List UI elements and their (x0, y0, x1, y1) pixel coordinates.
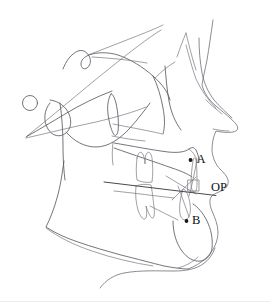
orbit-group (66, 94, 162, 147)
nasal-septum-curve (165, 66, 181, 130)
landmark-a-group: A (189, 152, 206, 166)
point-a-dot (189, 158, 193, 162)
sphenoid-group (26, 91, 146, 180)
occlusal-contact-cross-b (172, 177, 196, 200)
infraorbital-line (112, 136, 145, 141)
maxilla-group (112, 142, 199, 177)
mandibular-alveolar-line (114, 191, 174, 198)
point-a-label: A (197, 152, 206, 166)
nasal-tip-detail (206, 100, 222, 114)
nasal-cavity-group (153, 33, 196, 134)
mandible-ramus-body-outline (46, 161, 188, 269)
point-b-label: B (192, 213, 200, 227)
incisal-contact-box (188, 180, 199, 191)
zygomatic-line (113, 124, 162, 134)
lower-first-molar-outline (136, 184, 155, 219)
nasal-floor-maxilla-anterior (153, 76, 165, 134)
anterior-cranial-base-line (63, 50, 153, 76)
mandible-lower-border-inner (46, 228, 153, 266)
sella-turcica-circle (23, 96, 38, 111)
maxillary-tuberosity (112, 142, 113, 165)
frontonasal-line (92, 57, 147, 63)
cranial-base-long-line (27, 30, 161, 136)
pterygomaxillary-fissure-outline (108, 94, 119, 136)
mandible-group (46, 161, 212, 269)
subnasale-detail (213, 129, 229, 131)
cranial-base-group (27, 25, 170, 136)
soft-tissue-forehead-nose-lips-chin (188, 20, 238, 269)
cephalometric-tracing-canvas: A B OP (0, 0, 270, 302)
cephalometric-figure: A B OP (0, 0, 270, 302)
occlusal-plane-label: OP (211, 180, 227, 194)
landmark-b-group: B (185, 213, 201, 227)
nasion-area-line (177, 33, 186, 57)
point-b-dot (185, 219, 189, 223)
nasal-bone-line (186, 45, 216, 108)
cranial-base-upper-diagonal (88, 25, 163, 55)
soft-tissue-profile-group (186, 20, 238, 269)
